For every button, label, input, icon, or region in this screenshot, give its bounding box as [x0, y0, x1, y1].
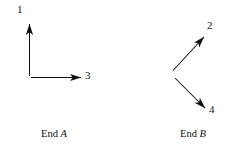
arrow-2-shaft	[173, 37, 204, 71]
caption-end-a-prefix: End	[41, 128, 61, 139]
vector-canvas	[0, 0, 229, 149]
caption-end-b-letter: B	[200, 128, 206, 139]
caption-end-b-prefix: End	[180, 128, 200, 139]
arrow-label-1: 1	[17, 4, 23, 15]
caption-end-a: End A	[41, 128, 67, 139]
caption-end-b: End B	[180, 128, 206, 139]
vector-figure: 1 3 2 4 End A End B	[0, 0, 229, 149]
arrow-label-3: 3	[85, 70, 91, 81]
arrow-4-shaft	[175, 78, 205, 108]
caption-end-a-letter: A	[61, 128, 67, 139]
arrow-label-2: 2	[207, 20, 213, 31]
arrow-label-4: 4	[209, 104, 215, 115]
